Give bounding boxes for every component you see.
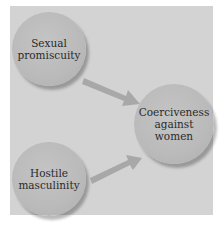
node-label-line: Coerciveness [137, 106, 212, 118]
node-label-line: masculinity [16, 179, 81, 191]
node-label-line: Hostile [16, 167, 81, 179]
node-label-line: Sexual [16, 37, 83, 49]
arrow-promiscuity-to-coerciveness [82, 78, 140, 106]
node-label-line: promiscuity [16, 49, 83, 61]
node-label-line: against [137, 118, 212, 130]
node-label-line: women [137, 130, 212, 142]
node-hostile-masculinity: Hostile masculinity [12, 142, 86, 216]
node-sexual-promiscuity: Sexual promiscuity [12, 12, 86, 86]
arrow-masculinity-to-coerciveness [90, 155, 142, 184]
node-coerciveness-against-women: Coerciveness against women [134, 84, 214, 164]
